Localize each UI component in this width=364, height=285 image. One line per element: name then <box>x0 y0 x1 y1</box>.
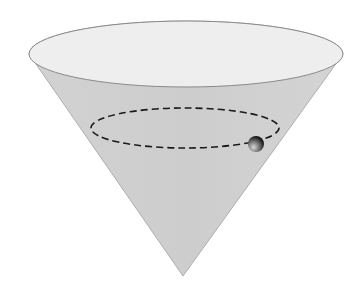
ball <box>248 136 264 152</box>
cone-diagram <box>0 0 364 285</box>
cone-top-opening <box>29 21 343 87</box>
diagram-canvas <box>0 0 364 285</box>
